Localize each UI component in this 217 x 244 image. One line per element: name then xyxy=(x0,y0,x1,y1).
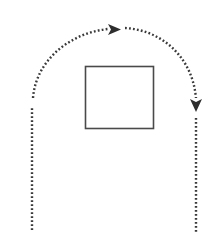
diagram-svg xyxy=(0,0,217,244)
arrow-down-icon xyxy=(190,99,202,112)
obstacle-square xyxy=(86,67,154,129)
arrow-right-icon xyxy=(108,24,121,35)
diagram-canvas xyxy=(0,0,217,244)
